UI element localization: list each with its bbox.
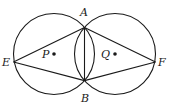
label-f: F [157,56,166,69]
label-b: B [80,92,89,105]
geometry-diagram: A B E F P Q [0,0,171,107]
label-p: P [41,48,50,61]
segment-af [85,27,156,62]
label-a: A [79,6,88,19]
label-e: E [1,56,10,69]
label-q: Q [101,48,110,61]
center-dot-q [113,52,117,56]
segment-eb [14,62,85,81]
center-dot-p [52,52,56,56]
segment-bf [85,62,156,81]
